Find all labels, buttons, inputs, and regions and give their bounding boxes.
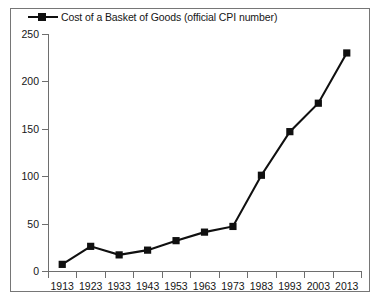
series-data-point [258,172,265,179]
series-data-point [116,251,123,258]
series-data-point [315,100,322,107]
series-data-point [87,243,94,250]
series-data-point [343,49,350,56]
series-markers-cpi [59,49,351,268]
series-data-point [201,229,208,236]
series-data-point [172,237,179,244]
series-data-point [59,261,66,268]
series-data-point [144,247,151,254]
series-data-point [286,128,293,135]
chart-figure: Cost of a Basket of Goods (official CPI … [0,0,380,301]
series-plot [0,0,380,301]
series-data-point [229,223,236,230]
